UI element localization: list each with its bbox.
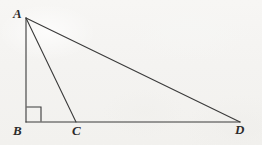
vertex-label-a: A: [13, 7, 22, 20]
vertex-label-c: C: [72, 124, 81, 137]
segment-ad: [26, 18, 240, 122]
geometry-figure: A B C D: [0, 0, 262, 145]
right-angle-marker-b: [27, 107, 41, 121]
segment-ac: [26, 18, 76, 122]
vertex-label-d: D: [235, 123, 244, 136]
triangle-diagram: [0, 0, 262, 145]
vertex-label-b: B: [13, 124, 22, 137]
